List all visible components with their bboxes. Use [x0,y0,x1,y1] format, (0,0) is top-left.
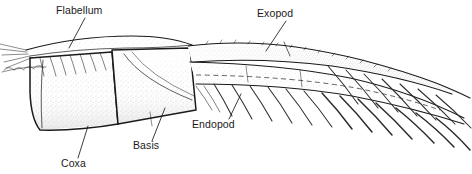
figure-container: Flabellum Exopod Endopod Basis Coxa [0,0,472,174]
leader-coxa [78,126,88,158]
basal-setae [196,86,220,112]
label-coxa: Coxa [61,157,86,169]
leader-endopod [229,94,241,119]
flabellum-filaments [0,44,31,68]
label-flabellum: Flabellum [56,4,103,16]
label-basis: Basis [133,139,159,151]
label-endopod: Endopod [192,118,235,130]
label-exopod: Exopod [257,7,293,19]
leader-exopod [266,21,286,51]
appendage-illustration: Flabellum Exopod Endopod Basis Coxa [0,0,472,174]
basis-segment [112,48,196,126]
coxa-segment [30,52,118,130]
